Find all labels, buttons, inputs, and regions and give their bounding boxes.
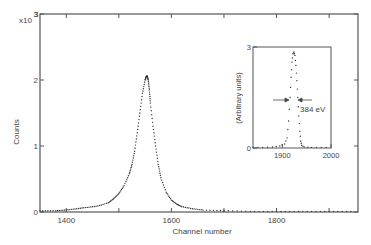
- y-tick-label: 0: [34, 208, 39, 217]
- inset-axis-ticks: 1900200003: [247, 43, 340, 160]
- y-tick-label: 0: [247, 144, 251, 153]
- fwhm-arrows: [273, 98, 312, 102]
- y-tick-label: 3: [247, 43, 251, 52]
- x-tick-label: 1900: [274, 151, 291, 160]
- y-axis-label: Counts: [12, 119, 21, 144]
- y-tick-label: 1: [34, 142, 39, 151]
- y-tick-label: 2: [34, 76, 39, 85]
- x-tick-label: 1400: [57, 216, 75, 225]
- fwhm-label: 384 eV: [300, 105, 326, 114]
- main-data-points: [39, 75, 351, 212]
- x-axis-label: Channel number: [172, 227, 231, 236]
- inset-data-points: [252, 51, 327, 148]
- y-multiplier: x10: [19, 16, 32, 25]
- y-multiplier-exponent: 3: [34, 10, 39, 19]
- x-tick-label: 1600: [163, 216, 181, 225]
- x-tick-label: 1800: [268, 216, 286, 225]
- chart-figure: 1400160018000123 1900200003 384 eV x10 3…: [0, 0, 371, 245]
- x-tick-label: 2000: [323, 151, 340, 160]
- main-axis-ticks: 1400160018000123: [34, 10, 358, 225]
- inset-y-axis-label: (Arbitrary units): [234, 72, 243, 124]
